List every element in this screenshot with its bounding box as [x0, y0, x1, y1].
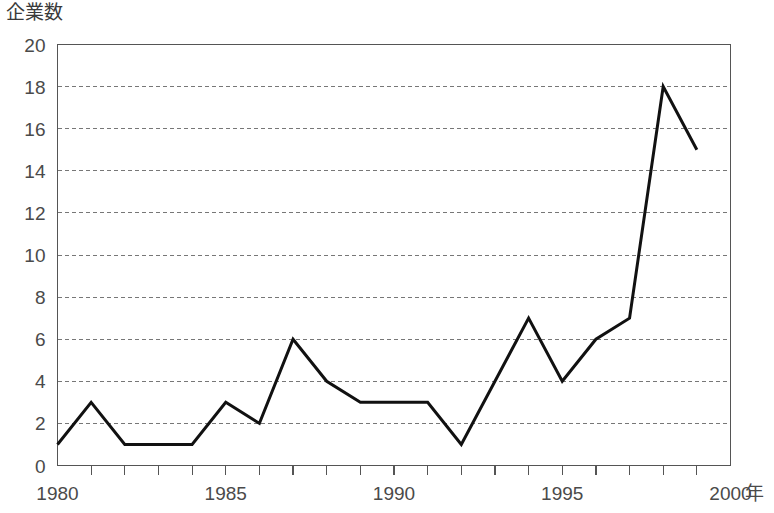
y-tick-label-16: 16	[24, 119, 45, 140]
data-series-group	[58, 87, 697, 445]
y-tick-label-20: 20	[24, 35, 45, 56]
x-tick-label-1995: 1995	[541, 483, 583, 504]
y-tick-label-12: 12	[24, 203, 45, 224]
x-tick-label-1980: 1980	[36, 483, 78, 504]
series-line-kigyousuu	[58, 87, 697, 445]
chart-container: 企業数 02468101214161820 198019851990199520…	[0, 0, 774, 513]
y-tick-label-18: 18	[24, 77, 45, 98]
x-tick-label-1990: 1990	[373, 483, 415, 504]
y-tick-label-0: 0	[35, 456, 46, 477]
line-chart-plot: 02468101214161820 19801985199019952000 年	[0, 0, 774, 513]
x-axis-unit-label: 年	[745, 483, 764, 504]
y-tick-label-6: 6	[35, 329, 46, 350]
y-axis-tick-labels: 02468101214161820	[24, 35, 46, 477]
x-axis-tick-labels: 19801985199019952000	[36, 483, 751, 504]
y-tick-label-4: 4	[35, 371, 46, 392]
x-tick-label-1985: 1985	[205, 483, 247, 504]
y-tick-label-2: 2	[35, 413, 46, 434]
y-tick-label-14: 14	[24, 161, 46, 182]
y-tick-label-10: 10	[24, 245, 45, 266]
x-tick-marks-group	[91, 466, 697, 475]
y-tick-label-8: 8	[35, 287, 46, 308]
gridlines-group	[58, 87, 731, 424]
